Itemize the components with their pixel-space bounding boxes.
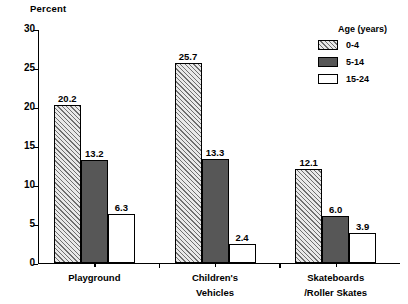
bar-value-label: 6.0 (329, 204, 342, 215)
x-tick-mark (159, 263, 160, 268)
bar-value-label: 6.3 (115, 202, 128, 213)
legend-label: 15-24 (346, 74, 369, 84)
y-tick-label: 10 (24, 179, 35, 190)
x-tick-mark (215, 263, 216, 267)
legend: Age (years) 0-45-1415-24 (318, 24, 408, 91)
legend-items: 0-45-1415-24 (318, 40, 408, 84)
bar: 12.1 (295, 169, 322, 263)
bar: 13.3 (202, 159, 229, 263)
bar-value-label: 13.2 (85, 148, 104, 159)
x-tick-mark (279, 263, 280, 268)
bar: 6.0 (322, 216, 349, 263)
y-tick-label: 5 (29, 218, 35, 229)
bar: 3.9 (349, 233, 376, 263)
category-label: Skateboards/Roller Skates (276, 270, 396, 300)
legend-label: 0-4 (346, 40, 359, 50)
bar-value-label: 2.4 (235, 232, 248, 243)
y-axis-line (38, 30, 39, 264)
legend-swatch (318, 57, 338, 67)
x-axis-line (38, 263, 400, 264)
y-tick-label: 25 (24, 62, 35, 73)
legend-item: 0-4 (318, 40, 408, 50)
category-label-line2: Vehicles (155, 285, 275, 300)
bar: 6.3 (108, 214, 135, 263)
bar-value-label: 12.1 (299, 157, 318, 168)
category-label-line1: Skateboards (307, 272, 364, 283)
legend-item: 15-24 (318, 74, 408, 84)
y-tick-label: 15 (24, 140, 35, 151)
bar-chart-figure: Percent 051015202530 20.213.26.325.713.3… (0, 0, 408, 304)
bar: 2.4 (229, 244, 256, 263)
bar-value-label: 3.9 (356, 221, 369, 232)
legend-item: 5-14 (318, 57, 408, 67)
bar: 13.2 (81, 160, 108, 263)
y-tick-label: 20 (24, 101, 35, 112)
legend-title: Age (years) (338, 24, 408, 34)
bar-value-label: 25.7 (179, 51, 198, 62)
bar: 25.7 (175, 63, 202, 263)
category-label-line1: Children's (192, 272, 238, 283)
category-label-line2: /Roller Skates (276, 285, 396, 300)
bar: 20.2 (54, 105, 81, 263)
category-label-line1: Playground (68, 272, 120, 283)
y-axis-title: Percent (30, 3, 66, 14)
y-tick-label: 30 (24, 23, 35, 34)
legend-label: 5-14 (346, 57, 364, 67)
category-label: Playground (34, 270, 154, 285)
x-tick-mark (94, 263, 95, 267)
category-label: Children'sVehicles (155, 270, 275, 300)
y-tick-label: 0 (29, 257, 35, 268)
bar-value-label: 20.2 (58, 93, 77, 104)
x-tick-mark (336, 263, 337, 267)
legend-swatch (318, 74, 338, 84)
bar-value-label: 13.3 (206, 147, 225, 158)
legend-swatch (318, 40, 338, 50)
